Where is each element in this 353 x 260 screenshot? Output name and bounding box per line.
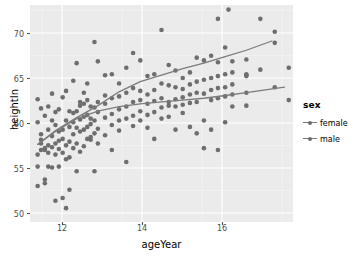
scatter-point (188, 70, 193, 75)
scatter-point (103, 115, 108, 120)
scatter-point (131, 100, 136, 105)
scatter-point (194, 131, 199, 136)
scatter-point (96, 141, 101, 146)
scatter-point (117, 118, 122, 123)
scatter-point (159, 116, 164, 121)
scatter-point (209, 127, 214, 132)
scatter-point (166, 114, 171, 119)
y-tick-mark (27, 168, 30, 169)
scatter-point (138, 109, 143, 114)
scatter-point (46, 104, 51, 109)
scatter-point (173, 127, 178, 132)
scatter-point (145, 92, 150, 97)
scatter-point (35, 152, 40, 157)
scatter-point (35, 164, 40, 169)
legend-title: sex (303, 100, 353, 110)
scatter-point (67, 139, 72, 144)
scatter-point (43, 114, 48, 119)
scatter-point (71, 146, 76, 151)
scatter-point (244, 57, 249, 62)
scatter-point (138, 118, 143, 123)
scatter-point (180, 111, 185, 116)
scatter-point (173, 85, 178, 90)
scatter-point (226, 7, 231, 12)
y-axis-title: heightIn (9, 60, 20, 160)
y-tick-label-55: 55 (2, 166, 24, 174)
scatter-point (74, 109, 79, 114)
scatter-point (131, 51, 136, 56)
scatter-point (110, 148, 115, 153)
scatter-point (138, 98, 143, 103)
scatter-point (124, 160, 129, 165)
x-tick-label-12: 12 (47, 225, 77, 233)
y-tick-mark (27, 33, 30, 34)
scatter-point (188, 92, 193, 97)
scatter-point (145, 74, 150, 79)
scatter-point (67, 187, 72, 192)
plot-canvas (30, 5, 293, 222)
scatter-point (39, 132, 44, 137)
scatter-point (35, 120, 40, 125)
scatter-point (223, 120, 228, 125)
scatter-point (110, 123, 115, 128)
scatter-point (74, 61, 79, 66)
scatter-point (159, 105, 164, 110)
scatter-point (124, 116, 129, 121)
scatter-point (117, 128, 122, 133)
scatter-point (286, 98, 291, 103)
legend-item-female[interactable]: female (303, 116, 353, 130)
scatter-point (67, 155, 72, 160)
y-tick-mark (27, 78, 30, 79)
scatter-point (88, 135, 93, 140)
scatter-point (92, 118, 97, 123)
scatter-point (216, 86, 221, 91)
scatter-point (244, 103, 249, 108)
scatter-point (188, 101, 193, 106)
legend-item-male[interactable]: male (303, 132, 353, 146)
scatter-point (92, 131, 97, 136)
scatter-point (110, 112, 115, 117)
scatter-point (53, 123, 58, 128)
scatter-point (230, 70, 235, 75)
scatter-point (188, 82, 193, 87)
scatter-point (103, 133, 108, 138)
scatter-point (223, 45, 228, 50)
scatter-point (39, 106, 44, 111)
scatter-point (194, 100, 199, 105)
y-tick-mark (27, 213, 30, 214)
scatter-point (173, 104, 178, 109)
scatter-point (57, 107, 62, 112)
y-tick-label-50: 50 (2, 211, 24, 219)
scatter-point (64, 206, 69, 211)
legend-key-female-icon (303, 116, 317, 130)
scatter-point (152, 110, 157, 115)
scatter-point (46, 127, 51, 132)
scatter-point (35, 97, 40, 102)
scatter-point (85, 81, 90, 86)
y-tick-mark (27, 123, 30, 124)
scatter-point (60, 150, 65, 155)
scatter-point (78, 150, 83, 155)
scatter-point (50, 165, 55, 170)
scatter-point (194, 55, 199, 60)
scatter-point (209, 88, 214, 93)
scatter-point (244, 73, 249, 78)
scatter-point (138, 89, 143, 94)
scatter-point (166, 63, 171, 68)
scatter-point (209, 98, 214, 103)
scatter-point (258, 17, 263, 22)
scatter-point (138, 58, 143, 63)
scatter-point (64, 118, 69, 123)
scatter-point (152, 72, 157, 77)
scatter-point (152, 88, 157, 93)
scatter-point (88, 122, 93, 127)
scatter-point (159, 28, 164, 33)
plot-panel (30, 5, 293, 222)
scatter-point (46, 164, 51, 169)
legend: sex female male (303, 100, 353, 148)
scatter-point (82, 90, 87, 95)
scatter-point (117, 94, 122, 99)
scatter-point (216, 74, 221, 79)
scatter-point (50, 118, 55, 123)
legend-label-male: male (320, 135, 340, 144)
